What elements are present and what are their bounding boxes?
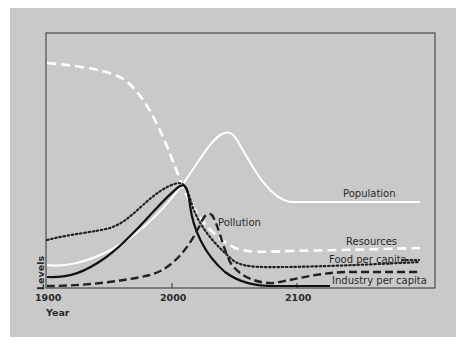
x-axis-label: Year (45, 307, 70, 318)
label-resources: Resources (346, 236, 397, 247)
y-axis-label: Levels (35, 256, 46, 290)
chart-svg: Population Pollution Resources Food per … (0, 0, 465, 349)
label-pollution: Pollution (218, 217, 261, 228)
tick-label-2000: 2000 (160, 292, 187, 303)
tick-label-2100: 2100 (285, 292, 312, 303)
label-population: Population (343, 188, 396, 199)
tick-label-1900: 1900 (35, 292, 62, 303)
label-industry: Industry per capita (332, 275, 427, 286)
label-food: Food per capita (329, 254, 407, 265)
